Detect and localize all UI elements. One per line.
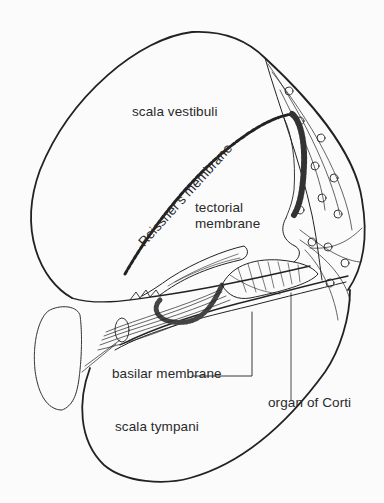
spiral-ligament [265,58,322,280]
tectorial-membrane [142,246,247,296]
label-tectorial-membrane-line2: membrane [195,217,260,231]
spiral-ganglion [34,307,81,410]
spiral-lamina-upper [72,266,310,302]
label-basilar-membrane: basilar membrane [112,367,222,381]
label-scala-vestibuli: scala vestibuli [132,105,218,119]
label-scala-tympani: scala tympani [115,420,199,434]
scala-vestibuli-wall [31,32,365,298]
reissners-membrane [125,114,292,274]
label-tectorial-membrane-line1: tectorial [195,201,243,215]
scala-tympani-wall [82,290,350,482]
label-organ-of-corti: organ of Corti [268,396,351,410]
